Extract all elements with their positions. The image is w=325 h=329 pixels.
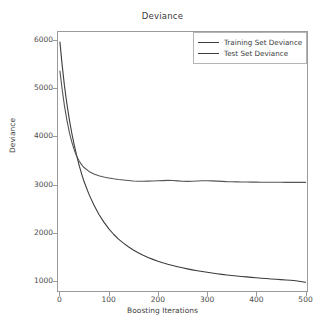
- x-tick-label: 100: [89, 295, 129, 304]
- y-tick-label: 4000: [13, 131, 53, 140]
- series-line: [60, 42, 306, 282]
- x-tick-mark: [109, 292, 110, 296]
- plot-lines: [57, 31, 308, 292]
- x-tick-label: 300: [187, 295, 227, 304]
- x-tick-mark: [158, 292, 159, 296]
- x-tick-label: 200: [138, 295, 178, 304]
- y-tick-label: 2000: [13, 228, 53, 237]
- legend-label-training: Training Set Deviance: [224, 38, 302, 47]
- line-swatch-icon: [198, 49, 219, 58]
- x-tick-label: 400: [236, 295, 276, 304]
- deviance-chart-figure: Deviance Deviance Boosting Iterations 10…: [0, 0, 325, 329]
- line-swatch-icon: [198, 38, 219, 47]
- legend-box: Training Set Deviance Test Set Deviance: [193, 32, 307, 64]
- x-tick-label: 0: [39, 295, 79, 304]
- x-tick-mark: [306, 292, 307, 296]
- legend-label-test: Test Set Deviance: [224, 49, 288, 58]
- y-tick-label: 6000: [13, 35, 53, 44]
- x-tick-mark: [256, 292, 257, 296]
- x-tick-mark: [59, 292, 60, 296]
- x-tick-label: 500: [286, 295, 325, 304]
- series-line: [60, 71, 306, 182]
- plot-area: [57, 31, 308, 292]
- x-tick-mark: [207, 292, 208, 296]
- y-tick-label: 5000: [13, 83, 53, 92]
- legend-item-test: Test Set Deviance: [198, 48, 301, 59]
- chart-title: Deviance: [0, 11, 325, 21]
- y-tick-label: 3000: [13, 180, 53, 189]
- y-tick-label: 1000: [13, 276, 53, 285]
- x-axis-label: Boosting Iterations: [0, 306, 325, 315]
- legend-item-training: Training Set Deviance: [198, 37, 301, 48]
